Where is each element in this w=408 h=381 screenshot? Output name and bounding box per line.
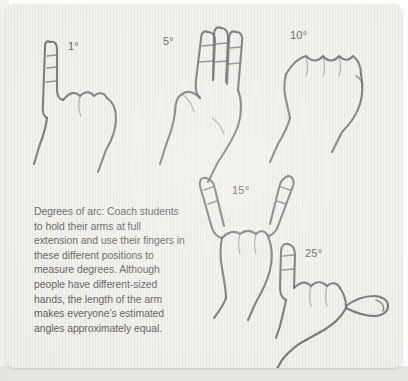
paper-panel: 1° 5°	[6, 4, 402, 368]
hand-illustration-5deg	[146, 22, 256, 192]
degree-label-15: 15°	[232, 184, 249, 196]
degree-label-10: 10°	[290, 29, 307, 41]
hand-drawing-1deg	[28, 30, 138, 190]
hand-illustration-10deg	[264, 34, 374, 184]
degree-label-5: 5°	[163, 35, 174, 47]
degree-label-25: 25°	[305, 247, 322, 259]
hand-drawing-5deg	[146, 22, 256, 192]
hand-drawing-25deg	[272, 236, 402, 368]
caption-text: Degrees of arc: Coach students to hold t…	[34, 205, 186, 336]
scan-bottom-edge	[0, 366, 408, 381]
hand-illustration-1deg	[28, 30, 138, 190]
degree-label-1: 1°	[68, 40, 79, 52]
hand-drawing-10deg	[264, 34, 374, 184]
hand-illustration-25deg	[272, 236, 402, 368]
caption-block: Degrees of arc: Coach students to hold t…	[34, 205, 186, 336]
figure-scan: 1° 5°	[0, 0, 408, 381]
